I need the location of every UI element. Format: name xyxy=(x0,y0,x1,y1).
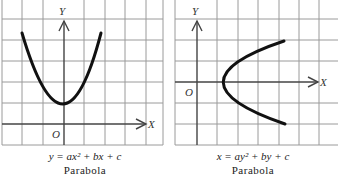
origin-label: O xyxy=(185,86,193,98)
parabola-curve xyxy=(22,33,101,104)
origin-label: O xyxy=(52,128,60,140)
horizontal-parabola-graph: Y X O xyxy=(168,0,338,148)
parabola-horizontal-panel: Y X O x = ay² + by + c Parabola xyxy=(168,0,338,148)
curve-name-label: Parabola xyxy=(0,164,170,176)
equation-label: y = ax² + bx + c xyxy=(0,150,170,162)
vertical-parabola-graph: Y X O xyxy=(0,0,170,148)
parabola-vertical-panel: Y X O y = ax² + bx + c Parabola xyxy=(0,0,170,148)
y-axis-label: Y xyxy=(192,5,200,17)
curve-name-label: Parabola xyxy=(168,164,338,176)
x-axis-label: X xyxy=(147,118,156,130)
y-axis-label: Y xyxy=(59,5,67,17)
grid xyxy=(175,0,338,145)
x-axis-label: X xyxy=(319,76,328,88)
equation-label: x = ay² + by + c xyxy=(168,150,338,162)
grid xyxy=(2,0,163,145)
